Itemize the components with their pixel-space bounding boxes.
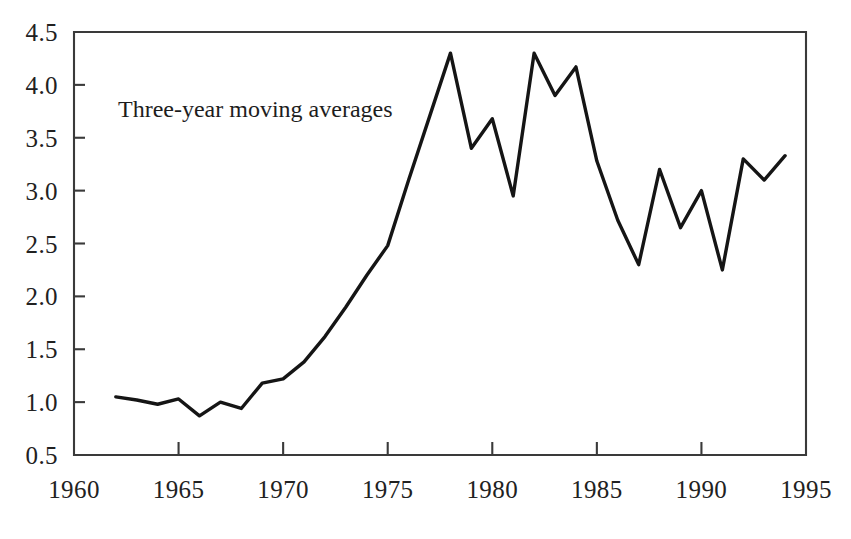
y-tick-label: 2.5 bbox=[26, 231, 58, 258]
y-tick-label: 1.0 bbox=[26, 389, 58, 416]
y-tick-label: 3.0 bbox=[26, 178, 58, 205]
y-axis-ticks bbox=[74, 85, 85, 402]
x-tick-label: 1975 bbox=[362, 476, 414, 503]
x-axis-tick-labels: 19601965197019751980198519901995 bbox=[48, 476, 832, 503]
y-tick-label: 4.5 bbox=[26, 19, 58, 46]
y-axis-tick-labels: 0.51.01.52.02.53.03.54.04.5 bbox=[26, 19, 58, 469]
y-tick-label: 2.0 bbox=[26, 283, 58, 310]
y-tick-label: 1.5 bbox=[26, 336, 58, 363]
x-tick-label: 1995 bbox=[780, 476, 832, 503]
y-tick-label: 0.5 bbox=[26, 442, 58, 469]
x-tick-label: 1985 bbox=[571, 476, 623, 503]
x-tick-label: 1970 bbox=[257, 476, 309, 503]
x-axis-ticks bbox=[179, 442, 702, 455]
chart-annotation: Three-year moving averages bbox=[118, 96, 393, 122]
x-tick-label: 1980 bbox=[466, 476, 518, 503]
y-tick-label: 3.5 bbox=[26, 125, 58, 152]
x-tick-label: 1960 bbox=[48, 476, 100, 503]
x-tick-label: 1990 bbox=[676, 476, 728, 503]
line-chart: 0.51.01.52.02.53.03.54.04.5 196019651970… bbox=[0, 0, 851, 539]
chart-figure: 0.51.01.52.02.53.03.54.04.5 196019651970… bbox=[0, 0, 851, 539]
y-tick-label: 4.0 bbox=[26, 72, 58, 99]
x-tick-label: 1965 bbox=[153, 476, 205, 503]
